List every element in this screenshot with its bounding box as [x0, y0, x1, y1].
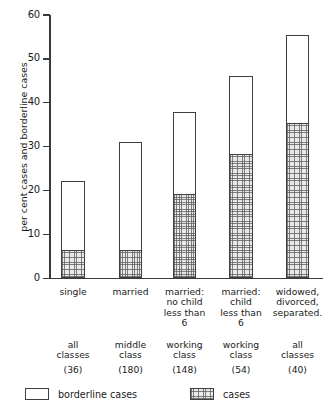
bar-segment-borderline-cases: [229, 76, 253, 155]
x-category-name: married:no childless than6: [153, 287, 217, 329]
x-category-sample-size: (36): [41, 365, 105, 375]
legend-label: cases: [223, 389, 250, 400]
legend-swatch-borderline: [25, 388, 49, 400]
y-tick-60: [43, 14, 50, 15]
bar-segment-cases: [229, 154, 253, 278]
y-tick-10: [43, 234, 50, 235]
y-tick-label-0: 0: [0, 273, 40, 283]
x-category-column: widowed,divorced,separated.allclasses(40…: [266, 287, 330, 382]
y-tick-40: [43, 102, 50, 103]
y-tick-label-60: 60: [0, 10, 40, 20]
bar-group: [286, 35, 310, 278]
bar-segment-cases: [119, 250, 143, 278]
x-category-name: married:childless than6: [209, 287, 273, 329]
legend-swatch-cases: [190, 388, 214, 400]
y-tick-20: [43, 190, 50, 191]
legend-item-borderline[interactable]: borderline cases: [25, 388, 137, 400]
bar-group: [61, 181, 85, 278]
x-category-social-class: allclasses: [41, 340, 105, 361]
y-tick-30: [43, 146, 50, 147]
y-tick-label-30: 30: [0, 141, 40, 151]
x-category-social-class: workingclass: [153, 340, 217, 361]
bar-group: [119, 142, 143, 278]
chart-legend: borderline casescases: [0, 388, 336, 412]
bar-segment-borderline-cases: [61, 181, 85, 251]
legend-label: borderline cases: [58, 389, 137, 400]
x-category-name: single: [41, 287, 105, 297]
legend-item-cases[interactable]: cases: [190, 388, 250, 400]
bar-segment-cases: [173, 194, 197, 279]
x-category-name: widowed,divorced,separated.: [266, 287, 330, 318]
bar-segment-borderline-cases: [173, 112, 197, 195]
bar-group: [229, 76, 253, 278]
bar-segment-borderline-cases: [119, 142, 143, 251]
bar-segment-cases: [61, 250, 85, 278]
x-category-social-class: workingclass: [209, 340, 273, 361]
x-category-sample-size: (40): [266, 365, 330, 375]
x-category-sample-size: (148): [153, 365, 217, 375]
bar-segment-borderline-cases: [286, 35, 310, 125]
x-category-social-class: allclasses: [266, 340, 330, 361]
bar-chart: per cent cases and borderline cases 0102…: [0, 0, 336, 417]
bar-segment-cases: [286, 123, 310, 278]
y-tick-0: [43, 278, 50, 279]
x-category-column: singleallclasses(36): [41, 287, 105, 382]
y-tick-label-20: 20: [0, 185, 40, 195]
x-category-column: married:childless than6workingclass(54): [209, 287, 273, 382]
y-tick-label-40: 40: [0, 97, 40, 107]
x-category-column: married:no childless than6workingclass(1…: [153, 287, 217, 382]
y-tick-50: [43, 58, 50, 59]
x-category-sample-size: (54): [209, 365, 273, 375]
bar-group: [173, 112, 197, 279]
y-tick-label-10: 10: [0, 229, 40, 239]
y-tick-label-50: 50: [0, 53, 40, 63]
